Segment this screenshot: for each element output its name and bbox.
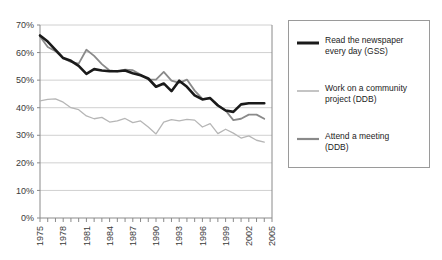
- y-tick-label: 50%: [16, 75, 34, 85]
- x-tick-label: 1984: [105, 226, 115, 246]
- x-tick-label: 1987: [128, 226, 138, 246]
- legend-swatch-newspaper: [297, 40, 319, 46]
- y-tick-label: 0%: [21, 213, 34, 223]
- y-tick-label: 20%: [16, 158, 34, 168]
- legend-swatch-meeting: [297, 136, 319, 142]
- legend-swatch-community: [297, 88, 319, 94]
- series-line-newspaper-gss: [40, 35, 264, 111]
- legend-label-community: Work on a community project (DDB): [325, 83, 407, 105]
- y-tick-label: 70%: [16, 20, 34, 30]
- y-tick-label: 60%: [16, 48, 34, 58]
- y-tick-label: 10%: [16, 186, 34, 196]
- x-tick-label: 1999: [221, 226, 231, 246]
- x-tick-label: 2002: [244, 226, 254, 246]
- y-tick-label: 40%: [16, 103, 34, 113]
- x-tick-label: 1975: [35, 226, 45, 246]
- x-tick-label: 1993: [174, 226, 184, 246]
- legend-item-meeting: Attend a meeting (DDB): [297, 131, 425, 153]
- legend-label-meeting: Attend a meeting (DDB): [325, 131, 389, 153]
- chart-container: 0%10%20%30%40%50%60%70%19751978198119841…: [0, 0, 442, 260]
- legend-item-newspaper: Read the newspaper every day (GSS): [297, 35, 425, 57]
- legend-item-community: Work on a community project (DDB): [297, 83, 425, 105]
- y-tick-label: 30%: [16, 130, 34, 140]
- x-tick-label: 1978: [58, 226, 68, 246]
- x-tick-label: 2005: [267, 226, 277, 246]
- chart-legend: Read the newspaper every day (GSS) Work …: [288, 20, 430, 168]
- x-tick-label: 1990: [151, 226, 161, 246]
- x-tick-label: 1996: [198, 226, 208, 246]
- x-tick-label: 1981: [82, 226, 92, 246]
- legend-label-newspaper: Read the newspaper every day (GSS): [325, 35, 403, 57]
